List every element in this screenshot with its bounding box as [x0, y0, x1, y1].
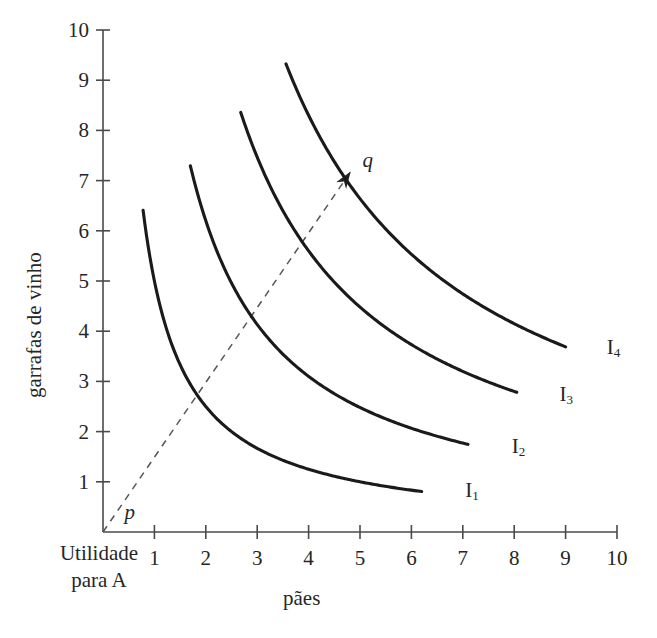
- y-axis-title: garrafas de vinho: [24, 252, 45, 398]
- x-axis-title: pães: [283, 588, 320, 609]
- chart-canvas: garrafas de vinho pães Utilidade para A …: [0, 0, 657, 638]
- y-tick-label: 7: [49, 171, 89, 192]
- curve-label-subscript: 1: [472, 488, 479, 503]
- x-tick-label: 8: [494, 548, 534, 569]
- x-tick-label: 6: [391, 548, 431, 569]
- x-tick-label: 7: [443, 548, 483, 569]
- curve-I2: [190, 166, 468, 444]
- x-tick-label: 9: [546, 548, 586, 569]
- x-tick-label: 3: [237, 548, 277, 569]
- y-tick-label: 4: [49, 321, 89, 342]
- curve-label-subscript: 3: [566, 392, 573, 407]
- axis-ticks: [96, 30, 617, 539]
- x-tick-label: 5: [340, 548, 380, 569]
- curve-I1: [143, 210, 422, 491]
- curve-label-base: I: [607, 335, 614, 359]
- y-tick-label: 9: [49, 70, 89, 91]
- origin-note-line2: para A: [24, 567, 174, 594]
- x-tick-label: 2: [186, 548, 226, 569]
- y-tick-label: 10: [49, 20, 89, 41]
- x-tick-label: 4: [289, 548, 329, 569]
- utility-ray: [103, 172, 351, 532]
- curve-label-I4: I4: [607, 337, 621, 359]
- curve-label-subscript: 4: [614, 345, 621, 360]
- y-tick-label: 3: [49, 371, 89, 392]
- x-tick-label: 1: [134, 548, 174, 569]
- y-tick-label: 5: [49, 271, 89, 292]
- curve-label-subscript: 2: [519, 444, 526, 459]
- ray-start-label: p: [125, 502, 136, 523]
- y-tick-label: 1: [49, 472, 89, 493]
- indifference-curves: [143, 64, 566, 492]
- y-tick-label: 8: [49, 120, 89, 141]
- ray-end-label: q: [363, 150, 374, 171]
- y-tick-label: 2: [49, 422, 89, 443]
- y-tick-label: 6: [49, 221, 89, 242]
- curve-label-I1: I1: [465, 480, 479, 502]
- x-tick-label: 10: [597, 548, 637, 569]
- curve-I3: [241, 112, 517, 392]
- ray-line: [103, 172, 351, 532]
- axes: [103, 30, 617, 532]
- curve-label-I2: I2: [512, 436, 526, 458]
- curve-label-base: I: [512, 434, 519, 458]
- curve-label-I3: I3: [559, 384, 573, 406]
